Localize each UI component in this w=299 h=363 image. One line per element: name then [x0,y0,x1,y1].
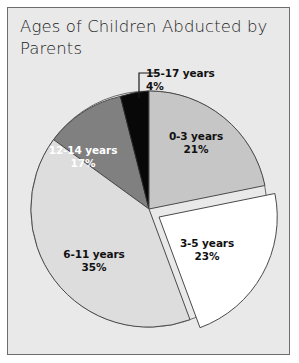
pie-label-6-11-years: 6-11 years 35% [46,248,142,275]
pie-label-15-17-years: 15-17 years 4% [146,67,232,94]
pie-chart: 15-17 years 4% 0-3 years 21% 3-5 years 2… [8,8,290,355]
pie-label-12-14-years: 12-14 years 17% [35,144,131,171]
pie-chart-svg [8,8,290,355]
pie-label-0-3-years: 0-3 years 21% [154,130,238,157]
chart-panel: Ages of Children Abducted by Parents 15-… [7,7,290,355]
pie-label-3-5-years: 3-5 years 23% [165,237,249,264]
